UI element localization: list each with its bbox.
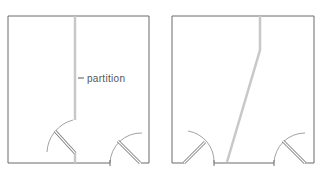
door-leaf-inner bbox=[283, 141, 305, 163]
angled-partition-wall bbox=[227, 16, 260, 162]
left-plan-walls bbox=[8, 16, 149, 163]
straight-partition-plan: partition bbox=[8, 16, 149, 166]
door-leaf-inner bbox=[55, 131, 75, 153]
floor-plan-diagram: partition bbox=[0, 0, 321, 169]
door-leaf-inner bbox=[184, 142, 205, 163]
partition-label: partition bbox=[87, 73, 125, 84]
door-leaf-inner bbox=[118, 141, 140, 163]
angled-partition-plan bbox=[172, 16, 314, 166]
right-plan-walls-left bbox=[172, 16, 314, 163]
